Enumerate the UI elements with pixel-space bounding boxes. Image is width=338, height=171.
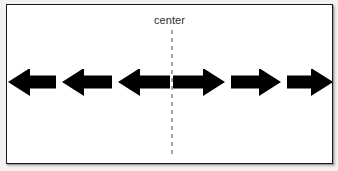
arrow-shape bbox=[173, 69, 225, 96]
arrow-shape bbox=[287, 69, 333, 96]
arrow-right-4 bbox=[173, 69, 225, 101]
figure-canvas: center bbox=[7, 5, 332, 163]
arrow-shape bbox=[8, 69, 56, 96]
arrow-shape bbox=[118, 69, 170, 96]
figure-panel: center bbox=[0, 0, 338, 171]
arrow-left-3 bbox=[118, 69, 170, 101]
arrow-shape bbox=[62, 69, 112, 96]
arrow-left-2 bbox=[62, 69, 112, 101]
arrow-left-1 bbox=[8, 69, 56, 101]
arrow-shape bbox=[231, 69, 281, 96]
arrow-row bbox=[7, 69, 332, 101]
figure-frame: center bbox=[6, 4, 333, 164]
arrow-right-6 bbox=[287, 69, 333, 101]
center-label: center bbox=[7, 14, 332, 27]
arrow-right-5 bbox=[231, 69, 281, 101]
